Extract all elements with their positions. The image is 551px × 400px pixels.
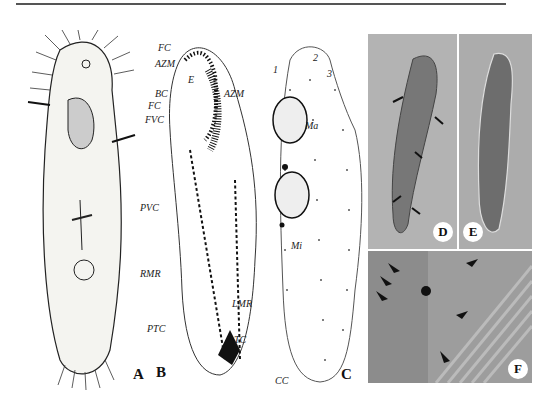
annotation-ptc: PTC	[147, 323, 165, 334]
annotation-azm-2: AZM	[224, 88, 244, 99]
panel-d-label: D	[433, 222, 453, 242]
annotation-fc-2: FC	[148, 100, 161, 111]
panel-a-drawing	[20, 30, 150, 390]
panel-e-label: E	[463, 222, 483, 242]
annotation-azm: AZM	[155, 58, 175, 69]
annotation-1: 1	[273, 64, 278, 75]
top-rule	[16, 3, 506, 5]
annotation-e: E	[188, 74, 194, 85]
panel-f-photo: F	[368, 251, 532, 383]
panel-d-photo: D	[368, 34, 457, 249]
panel-f-label: F	[508, 359, 528, 379]
annotation-fc: FC	[158, 42, 171, 53]
panel-b-drawing	[140, 30, 270, 390]
panel-b-label: B	[156, 364, 166, 381]
panel-c-label: C	[341, 366, 352, 383]
annotation-tc: TC	[234, 334, 246, 345]
panel-b: FC AZM E BC FC FVC AZM PVC RMR LMR PTC T…	[140, 30, 270, 390]
annotation-rmr: RMR	[140, 268, 161, 279]
annotation-fvc: FVC	[145, 114, 164, 125]
annotation-cc: CC	[275, 375, 288, 386]
annotation-pvc: PVC	[140, 202, 159, 213]
annotation-lmr: LMR	[232, 298, 252, 309]
panel-a: A	[20, 30, 150, 390]
annotation-ma: Ma	[305, 120, 318, 131]
panel-d-cell	[368, 34, 457, 249]
panel-c-drawing	[265, 30, 375, 390]
panel-f-texture	[368, 251, 532, 383]
annotation-mi: Mi	[291, 240, 302, 251]
annotation-3: 3	[327, 68, 332, 79]
annotation-2: 2	[313, 52, 318, 63]
annotation-bc: BC	[155, 88, 168, 99]
panel-c: 1 2 3 Ma Mi CC C	[265, 30, 375, 390]
panel-e-photo: E	[459, 34, 532, 249]
panel-e-cell	[459, 34, 532, 249]
